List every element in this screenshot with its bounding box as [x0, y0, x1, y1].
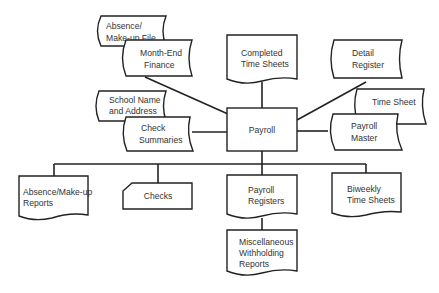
payroll-master-line2: Master [351, 133, 377, 143]
completed-time-sheets-line1: Completed [241, 48, 283, 58]
check-summaries: Check Summaries [123, 117, 193, 151]
payroll-registers-line1: Payroll [248, 185, 274, 195]
payroll-label: Payroll [249, 125, 275, 135]
payroll-master: Payroll Master [330, 114, 402, 150]
misc-withholding-line2: Withholding [239, 248, 284, 258]
detail-register-line2: Register [352, 60, 384, 70]
misc-withholding-line1: Miscellaneous [239, 237, 293, 247]
month-end-finance-line1: Month-End [140, 48, 182, 58]
misc-withholding-line3: Reports [239, 259, 269, 269]
absence-reports-line2: Reports [23, 198, 53, 208]
biweekly-line2: Time Sheets [347, 195, 395, 205]
payroll-process: Payroll [227, 108, 297, 151]
detail-register: Detail Register [331, 40, 402, 78]
month-end-finance-line2: Finance [144, 60, 175, 70]
biweekly-line1: Biweekly [347, 184, 382, 194]
payroll-registers-line2: Registers [248, 196, 284, 206]
completed-time-sheets-line2: Time Sheets [241, 59, 289, 69]
check-summaries-line2: Summaries [139, 135, 182, 145]
absence-reports-line1: Absence/Make-up [23, 187, 92, 197]
absence-makeup-file-line1: Absence/ [106, 21, 142, 31]
biweekly-time-sheets: Biweekly Time Sheets [332, 173, 401, 217]
school-name-line1: School Name [109, 95, 161, 105]
time-sheet-label: Time Sheet [372, 97, 416, 107]
detail-register-line1: Detail [352, 48, 374, 58]
payroll-registers: Payroll Registers [227, 175, 297, 218]
payroll-master-line1: Payroll [351, 121, 377, 131]
completed-time-sheets: Completed Time Sheets [227, 35, 297, 83]
month-end-finance: Month-End Finance [123, 40, 193, 76]
school-name-line2: and Address [109, 106, 157, 116]
payroll-system-flowchart: Absence/ Make-up File Month-End Finance … [0, 0, 439, 293]
absence-makeup-reports: Absence/Make-up Reports [19, 176, 92, 220]
check-summaries-line1: Check [141, 123, 166, 133]
misc-withholding-reports: Miscellaneous Withholding Reports [227, 230, 297, 275]
checks-output: Checks [123, 183, 192, 209]
checks-label: Checks [144, 191, 173, 201]
